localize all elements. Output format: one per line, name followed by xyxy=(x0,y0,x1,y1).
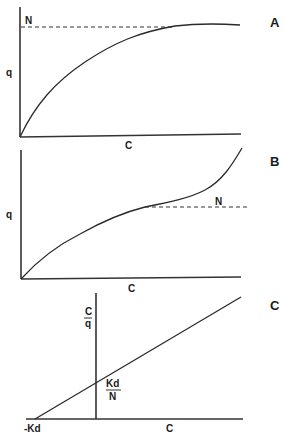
panel-c: C q Kd N -Kd C C xyxy=(24,293,280,434)
panel-c-x-intercept-label: -Kd xyxy=(24,423,41,434)
panel-b-x-axis xyxy=(21,277,241,279)
adsorption-isotherm-diagram: N q C A N q C B C q Kd N -Kd C C xyxy=(0,0,285,437)
panel-c-label: C xyxy=(270,298,280,313)
panel-b-x-axis-label: C xyxy=(128,283,135,294)
panel-b-isotherm-curve xyxy=(21,148,242,279)
panel-c-y-axis-label-denominator: q xyxy=(85,318,91,329)
panel-a: N q C A xyxy=(6,7,280,151)
panel-b-asymptote-label: N xyxy=(215,196,222,207)
panel-a-y-axis-label: q xyxy=(6,67,12,78)
panel-c-linear-plot xyxy=(35,297,241,419)
panel-b-label: B xyxy=(270,154,279,169)
panel-a-x-axis-label: C xyxy=(125,140,132,151)
panel-a-x-axis xyxy=(20,134,241,137)
panel-a-asymptote-label: N xyxy=(25,15,32,26)
panel-b: N q C B xyxy=(6,148,279,294)
panel-a-label: A xyxy=(270,15,280,30)
panel-c-intercept-label-denominator: N xyxy=(109,391,116,402)
panel-c-intercept-label-numerator: Kd xyxy=(106,378,119,389)
panel-c-x-axis-label: C xyxy=(166,423,173,434)
panel-b-y-axis-label: q xyxy=(6,209,12,220)
panel-a-isotherm-curve xyxy=(20,24,240,137)
panel-c-y-axis-label-numerator: C xyxy=(85,306,92,317)
